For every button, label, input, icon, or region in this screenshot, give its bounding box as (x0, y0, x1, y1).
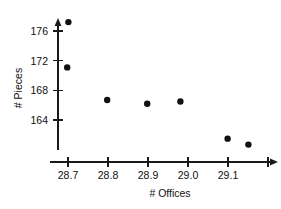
data-point (64, 64, 70, 70)
plot-canvas: 164168172176 28.728.828.929.029.1 # Piec… (0, 0, 281, 209)
x-axis-ticks: 28.728.828.929.029.1 (58, 157, 268, 181)
x-tick-label: 29.1 (218, 169, 239, 181)
x-axis-title: # Offices (149, 187, 190, 199)
y-axis (55, 18, 62, 150)
y-tick-label: 164 (30, 114, 48, 126)
data-points (64, 19, 252, 148)
x-tick-label: 28.7 (58, 169, 79, 181)
x-tick-label: 29.0 (178, 169, 199, 181)
x-axis-arrow-icon (270, 159, 278, 166)
x-tick-label: 28.8 (98, 169, 119, 181)
data-point (224, 135, 230, 141)
data-point (144, 101, 150, 107)
data-point (177, 98, 183, 104)
y-tick-label: 168 (30, 84, 48, 96)
y-axis-title: # Pieces (12, 68, 24, 108)
x-axis (50, 159, 278, 166)
data-point (245, 141, 251, 147)
y-tick-label: 172 (30, 55, 48, 67)
scatter-plot-figure: 164168172176 28.728.828.929.029.1 # Piec… (0, 0, 281, 209)
data-point (104, 97, 110, 103)
y-axis-arrow-icon (55, 18, 62, 26)
y-tick-label: 176 (30, 25, 48, 37)
data-point (65, 19, 71, 25)
x-tick-label: 28.9 (138, 169, 159, 181)
